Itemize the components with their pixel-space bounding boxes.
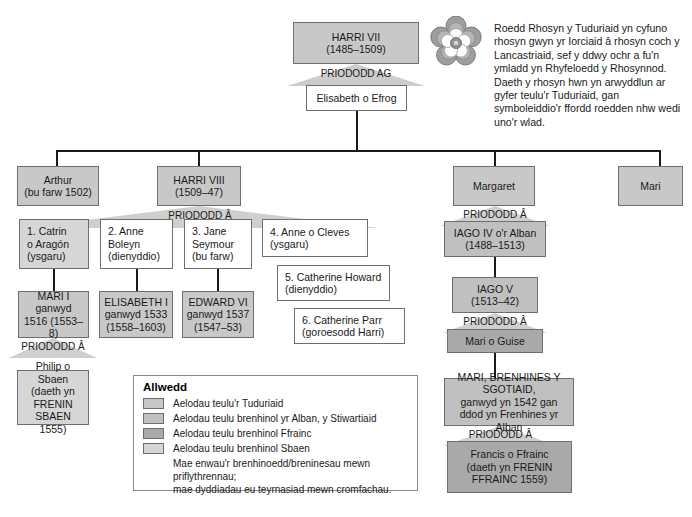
legend-label: Aelodau teulu'r Tuduriaid xyxy=(173,397,283,410)
legend-item-stewart: Aelodau teulu brenhinol yr Alban, y Stiw… xyxy=(143,412,417,425)
legend-swatch-stewart xyxy=(143,413,164,424)
node-mari-i: MARI I ganwyd 1516 (1553–8) xyxy=(18,291,89,338)
connector-line xyxy=(198,150,200,167)
node-arthur: Arthur (bu farw 1502) xyxy=(17,166,99,206)
legend-swatch-france xyxy=(143,428,164,439)
connector-line xyxy=(217,269,219,291)
legend-label: Aelodau teulu brenhinol Sbaen xyxy=(173,442,310,455)
node-mari-o-guise: Mari o Guise xyxy=(447,329,543,353)
legend-box: Allwedd Aelodau teulu'r Tuduriaid Aeloda… xyxy=(133,375,418,491)
legend-item-spain: Aelodau teulu brenhinol Sbaen xyxy=(143,442,417,455)
node-edward-vi: EDWARD VI ganwyd 1537 (1547–53) xyxy=(182,291,254,338)
connector-line xyxy=(494,257,496,278)
node-philip-o-sbaen: Philip o Sbaen (daeth yn FRENIN SBAEN 15… xyxy=(17,370,89,425)
node-elisabeth-o-efrog: Elisabeth o Efrog xyxy=(306,85,407,111)
node-wife-4-anne-o-cleves: 4. Anne o Cleves (ysgaru) xyxy=(262,219,368,257)
node-mari-brenhines-y-sgotiaid: MARI, BRENHINES Y SGOTIAID, ganwyd yn 15… xyxy=(444,378,574,426)
node-wife-2-anne-boleyn: 2. Anne Boleyn (dienyddio) xyxy=(100,219,173,269)
node-wife-3-jane-seymour: 3. Jane Seymour (bu farw) xyxy=(184,219,252,269)
legend-title: Allwedd xyxy=(143,381,417,393)
node-iago-iv: IAGO IV o'r Alban (1488–1513) xyxy=(444,221,546,257)
legend-item-tudor: Aelodau teulu'r Tuduriaid xyxy=(143,397,417,410)
legend-item-france: Aelodau teulu brenhinol Ffrainc xyxy=(143,427,417,440)
legend-label: Aelodau teulu brenhinol Ffrainc xyxy=(173,427,311,440)
marriage-banner-mari-i: PRIODODD Â xyxy=(9,338,97,358)
node-mari: Mari xyxy=(618,166,683,206)
node-wife-5-catherine-howard: 5. Catherine Howard (dienyddio) xyxy=(277,265,390,301)
node-wife-1-catrin-o-aragon: 1. Catrin o Aragón (ysgaru) xyxy=(19,219,89,269)
tudor-rose-description: Roedd Rhosyn y Tuduriaid yn cyfuno rhosy… xyxy=(494,22,684,129)
node-francis-o-ffrainc: Francis o Ffrainc (daeth yn FRENIN FFRAI… xyxy=(447,441,572,493)
marriage-label: PRIODODD Â xyxy=(440,206,550,221)
node-harri-vii: HARRI VII (1485–1509) xyxy=(293,22,419,64)
connector-line xyxy=(356,111,358,151)
legend-swatch-tudor xyxy=(143,398,164,409)
connector-line xyxy=(53,269,55,291)
connector-line xyxy=(56,150,58,167)
node-wife-6-catherine-parr: 6. Catherine Parr (goroesodd Harri) xyxy=(294,308,405,344)
legend-label: Aelodau teulu brenhinol yr Alban, y Stiw… xyxy=(173,412,376,425)
node-harri-viii: HARRI VIII (1509–47) xyxy=(157,166,241,206)
connector-line xyxy=(494,150,496,167)
node-margaret: Margaret xyxy=(453,166,535,206)
tudor-rose-icon xyxy=(430,16,482,68)
marriage-label: PRIODODD Â xyxy=(9,338,97,353)
legend-note: Mae enwau'r brenhinoedd/breninesau mewn … xyxy=(173,457,409,496)
marriage-label: PRIODODD AG xyxy=(287,64,425,80)
family-tree-diagram: Roedd Rhosyn y Tuduriaid yn cyfuno rhosy… xyxy=(0,0,692,517)
node-elisabeth-i: ELISABETH I ganwyd 1533 (1558–1603) xyxy=(99,291,173,338)
legend-swatch-spain xyxy=(143,443,164,454)
connector-line xyxy=(136,269,138,291)
sibling-connector-bar xyxy=(56,150,660,152)
marriage-banner-harri-vii: PRIODODD AG xyxy=(287,64,425,86)
marriage-label: PRIODODD Â xyxy=(443,313,547,328)
node-iago-v: IAGO V (1513–42) xyxy=(452,277,538,313)
connector-line xyxy=(659,150,661,167)
